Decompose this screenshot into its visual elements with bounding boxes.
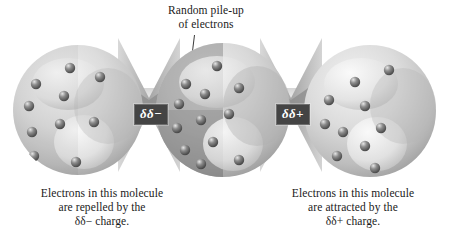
caption-right-line-3: δδ+ charge. — [255, 214, 451, 228]
charge-badge-negative: δδ− — [134, 104, 168, 125]
caption-left: Electrons in this molecule are repelled … — [4, 186, 200, 228]
molecule-middle — [155, 42, 291, 178]
caption-left-line-2: are repelled by the — [4, 200, 200, 214]
molecule-left — [12, 44, 144, 176]
caption-left-line-3: δδ− charge. — [4, 214, 200, 228]
caption-right-line-1: Electrons in this molecule — [255, 186, 451, 200]
charge-badge-positive: δδ+ — [276, 104, 310, 125]
top-annotation-label: Random pile-up of electrons — [126, 4, 286, 31]
top-annotation-line-2: of electrons — [126, 18, 286, 32]
caption-right: Electrons in this molecule are attracted… — [255, 186, 451, 228]
dispersion-force-figure: Random pile-up of electrons — [0, 0, 453, 241]
caption-left-line-1: Electrons in this molecule — [4, 186, 200, 200]
molecule-right — [303, 44, 437, 178]
top-annotation-line-1: Random pile-up — [126, 4, 286, 18]
caption-right-line-2: are attracted by the — [255, 200, 451, 214]
